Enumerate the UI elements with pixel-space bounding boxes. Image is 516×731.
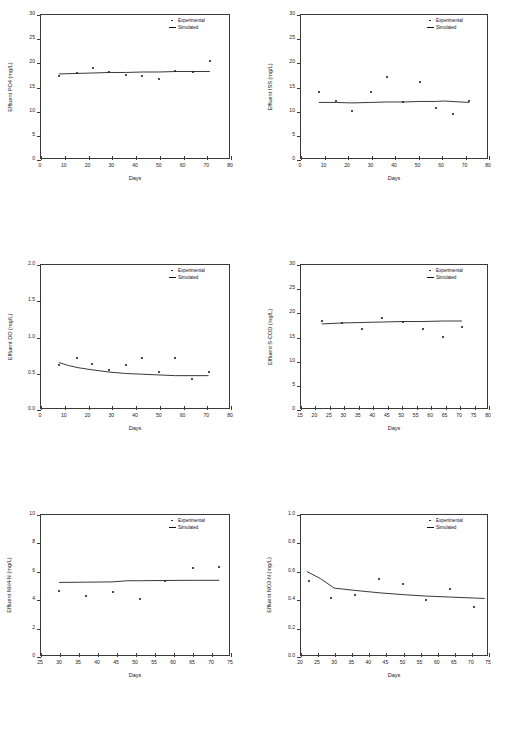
- x-axis-tick-label: 70: [456, 413, 462, 418]
- x-axis-tick-label: 0: [299, 163, 302, 168]
- y-axis-tick-label: 0.4: [274, 597, 295, 602]
- x-axis-tick-label: 45: [113, 660, 119, 665]
- chart-legend: ExperimentalSimulated: [168, 17, 205, 31]
- y-axis-title: Effluent DO (mg/L): [6, 264, 12, 409]
- y-axis-tick-label: 5: [14, 132, 35, 137]
- chart-panel-effluent-scod: 0510152025301520253035404550556065707580…: [258, 250, 516, 500]
- legend-dot-icon: [168, 267, 176, 274]
- legend-item-simulated: Simulated: [426, 274, 463, 281]
- y-axis-tick-label: 10: [14, 108, 35, 113]
- y-axis-tick-label: 5: [274, 132, 295, 137]
- legend-item-simulated: Simulated: [426, 524, 463, 531]
- x-axis-tick-label: 75: [485, 660, 491, 665]
- y-axis-tick-label: 10: [274, 358, 295, 363]
- x-axis-tick-label: 20: [312, 413, 318, 418]
- x-axis-tick-label: 40: [132, 413, 138, 418]
- y-axis-tick-label: 2: [14, 625, 35, 630]
- y-axis-title: Effluent ISS (mg/L): [266, 14, 272, 159]
- simulated-curve: [40, 14, 232, 161]
- y-axis-tick-label: 2.0: [14, 261, 35, 266]
- y-axis-tick-label: 0.8: [274, 540, 295, 545]
- x-axis-tick-label: 40: [391, 163, 397, 168]
- x-axis-title: Days: [300, 425, 488, 431]
- x-axis-tick-label: 30: [108, 163, 114, 168]
- y-axis-tick-label: 0.5: [14, 370, 35, 375]
- legend-item-experimental: Experimental: [426, 267, 463, 274]
- y-axis-tick-label: 30: [14, 11, 35, 16]
- chart-panel-effluent-no3n: 0.00.20.40.60.81.02025303540455055606570…: [258, 500, 516, 731]
- x-axis-tick-label: 35: [75, 660, 81, 665]
- x-axis-tick-label: 30: [56, 660, 62, 665]
- y-axis-tick-label: 15: [274, 84, 295, 89]
- simulated-curve: [300, 514, 490, 658]
- y-axis-tick-label: 4: [14, 597, 35, 602]
- y-axis-tick-label: 0.0: [14, 406, 35, 411]
- y-axis-tick-label: 0.6: [274, 568, 295, 573]
- x-axis-tick-label: 80: [227, 413, 233, 418]
- x-axis-tick-label: 65: [442, 413, 448, 418]
- x-axis-tick-label: 60: [180, 163, 186, 168]
- chart-legend: ExperimentalSimulated: [426, 517, 463, 531]
- simulated-curve: [40, 264, 232, 411]
- x-axis-tick-label: 45: [383, 660, 389, 665]
- simulated-curve: [300, 264, 490, 411]
- legend-item-simulated: Simulated: [426, 24, 463, 31]
- x-axis-tick-label: 20: [85, 413, 91, 418]
- x-axis-tick-label: 30: [368, 163, 374, 168]
- y-axis-tick-label: 15: [14, 84, 35, 89]
- x-axis-tick-label: 25: [37, 660, 43, 665]
- x-axis-tick-label: 30: [341, 413, 347, 418]
- x-axis-tick-label: 10: [61, 163, 67, 168]
- x-axis-tick-label: 40: [132, 163, 138, 168]
- x-axis-tick-label: 40: [366, 660, 372, 665]
- legend-item-experimental: Experimental: [426, 17, 463, 24]
- x-axis-tick-label: 60: [427, 413, 433, 418]
- chart-legend: ExperimentalSimulated: [168, 267, 205, 281]
- x-axis-tick-label: 55: [413, 413, 419, 418]
- legend-label-simulated: Simulated: [436, 524, 456, 531]
- x-axis-tick-label: 60: [180, 413, 186, 418]
- y-axis-tick-label: 30: [274, 261, 295, 266]
- x-axis-tick-label: 55: [417, 660, 423, 665]
- legend-line-icon: [168, 524, 176, 531]
- x-axis-tick-label: 30: [331, 660, 337, 665]
- legend-dot-icon: [168, 17, 176, 24]
- legend-label-experimental: Experimental: [178, 267, 205, 274]
- x-axis-tick-label: 75: [227, 660, 233, 665]
- y-axis-tick-label: 10: [274, 108, 295, 113]
- x-axis-tick-label: 80: [227, 163, 233, 168]
- legend-item-simulated: Simulated: [168, 274, 205, 281]
- x-axis-tick-label: 60: [434, 660, 440, 665]
- y-axis-title: Effluent PO4 (mg/L): [6, 14, 12, 159]
- y-axis-tick-label: 20: [274, 60, 295, 65]
- x-axis-tick-label: 80: [485, 163, 491, 168]
- chart-legend: ExperimentalSimulated: [426, 267, 463, 281]
- legend-line-icon: [168, 24, 176, 31]
- y-axis-tick-label: 0: [14, 156, 35, 161]
- chart-legend: ExperimentalSimulated: [426, 17, 463, 31]
- legend-label-simulated: Simulated: [436, 24, 456, 31]
- x-axis-tick-label: 40: [94, 660, 100, 665]
- x-axis-tick-label: 65: [189, 660, 195, 665]
- chart-panel-effluent-po4: 05101520253001020304050607080DaysEffluen…: [0, 0, 258, 250]
- figure-grid: 05101520253001020304050607080DaysEffluen…: [0, 0, 516, 731]
- x-axis-tick-label: 35: [355, 413, 361, 418]
- x-axis-tick-label: 10: [321, 163, 327, 168]
- x-axis-tick-label: 30: [108, 413, 114, 418]
- x-axis-tick-label: 10: [61, 413, 67, 418]
- chart-panel-effluent-iss: 05101520253001020304050607080DaysEffluen…: [258, 0, 516, 250]
- x-axis-tick-label: 60: [438, 163, 444, 168]
- x-axis-tick-label: 20: [297, 660, 303, 665]
- y-axis-tick-label: 25: [274, 36, 295, 41]
- chart-panel-effluent-do: 0.00.51.01.52.001020304050607080DaysEffl…: [0, 250, 258, 500]
- legend-label-experimental: Experimental: [178, 517, 205, 524]
- y-axis-tick-label: 0.2: [274, 625, 295, 630]
- legend-line-icon: [168, 274, 176, 281]
- y-axis-tick-label: 5: [274, 382, 295, 387]
- x-axis-tick-label: 60: [170, 660, 176, 665]
- x-axis-title: Days: [40, 175, 230, 181]
- y-axis-title: Effluent NO3-N (mg/L): [266, 514, 272, 656]
- x-axis-tick-label: 40: [369, 413, 375, 418]
- x-axis-tick-label: 50: [132, 660, 138, 665]
- y-axis-tick-label: 20: [274, 310, 295, 315]
